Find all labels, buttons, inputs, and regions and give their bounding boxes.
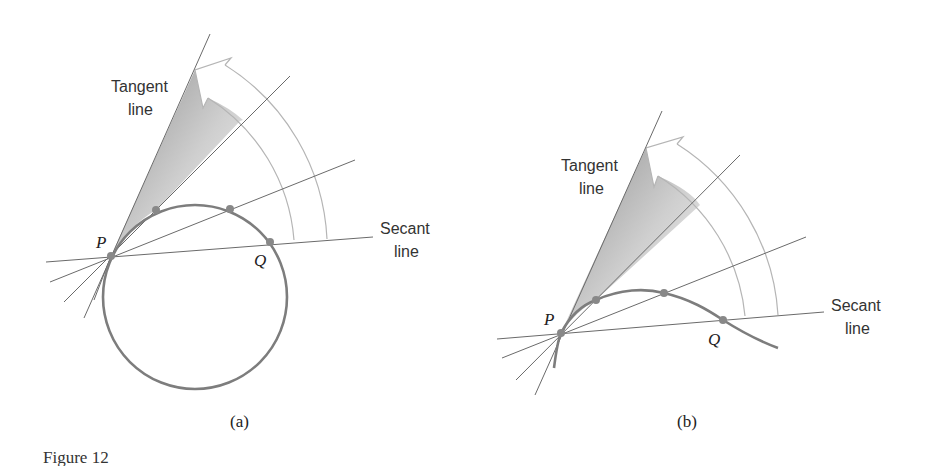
figure-canvas: Tangent line Secant line P Q (a) Tangent… — [0, 0, 928, 466]
panel-a: Tangent line Secant line P Q (a) — [46, 34, 430, 431]
point-p-label: P — [543, 310, 554, 329]
point-q — [266, 238, 274, 246]
secant-label-line1: Secant — [380, 220, 430, 237]
shaded-wedge — [111, 70, 243, 256]
secant-label-line1: Secant — [831, 297, 881, 314]
point-q-label: Q — [254, 251, 266, 270]
secant-label-line2: line — [845, 320, 870, 337]
point-p-label: P — [95, 233, 106, 252]
point-p — [107, 252, 115, 260]
panel-a-sublabel: (a) — [230, 412, 249, 431]
point-q-label: Q — [708, 330, 720, 349]
tangent-label-line1: Tangent — [111, 78, 168, 95]
point-intermediate-2 — [660, 289, 668, 297]
point-intermediate-2 — [226, 205, 234, 213]
figure-caption: Figure 12 — [43, 448, 109, 466]
tangent-label-line2: line — [128, 101, 153, 118]
shaded-wedge — [561, 148, 700, 333]
rotation-arrow — [195, 58, 327, 240]
point-q — [719, 316, 727, 324]
panel-b-sublabel: (b) — [677, 412, 697, 431]
tangent-label-line1: Tangent — [561, 157, 618, 174]
point-intermediate-1 — [152, 206, 160, 214]
point-p — [557, 329, 565, 337]
circle-curve — [103, 205, 287, 389]
point-intermediate-1 — [592, 296, 600, 304]
secant-label-line2: line — [394, 243, 419, 260]
tangent-line — [84, 34, 210, 318]
secant-line-2 — [50, 160, 355, 282]
tangent-label-line2: line — [579, 180, 604, 197]
panel-b: Tangent line Secant line P Q (b) — [497, 111, 881, 431]
